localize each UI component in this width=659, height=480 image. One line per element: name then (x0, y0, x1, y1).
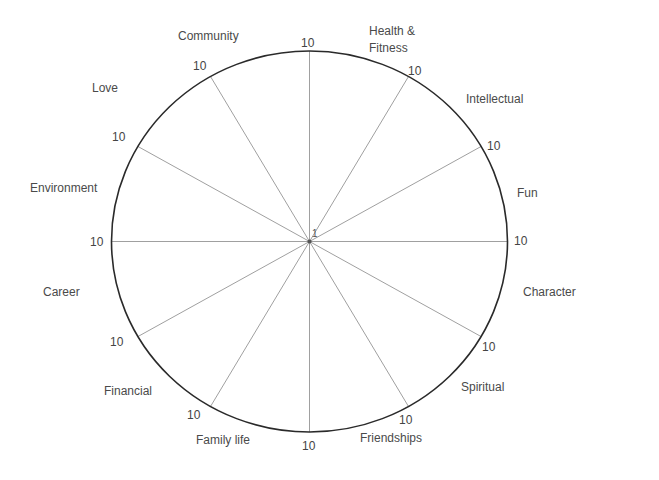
spoke-end-label: 10 (90, 235, 104, 249)
spoke-end-label: 10 (302, 439, 316, 453)
spoke-end-label: 10 (301, 36, 315, 50)
spoke-end-label: 10 (193, 59, 207, 73)
center-label: 1 (312, 228, 318, 239)
spoke-minus120 (211, 242, 310, 407)
spoke-end-label: 10 (187, 408, 201, 422)
spoke-end-label: 10 (110, 335, 124, 349)
segment-label-friendships: Friendships (360, 431, 422, 445)
spoke-30 (310, 147, 482, 242)
center-point (308, 240, 312, 244)
spoke-end-label: 10 (112, 130, 126, 144)
segment-label-career: Career (43, 285, 80, 299)
spoke-end-label: 10 (487, 139, 501, 153)
spoke-60 (310, 77, 409, 242)
segment-label-health-fitness: Health & Fitness (369, 24, 418, 55)
spoke-end-label: 10 (399, 413, 413, 427)
spoke-minus150 (138, 242, 310, 337)
segment-label-intellectual: Intellectual (466, 92, 523, 106)
segment-label-community: Community (178, 29, 239, 43)
spoke-end-label: 10 (514, 234, 528, 248)
segment-label-line: Health & (369, 24, 415, 38)
spoke-end-label: 10 (482, 340, 496, 354)
spoke-minus60 (310, 242, 409, 407)
segment-label-line: Fitness (369, 41, 408, 55)
wheel-of-life-diagram: 1 10 10 10 10 10 10 10 10 10 10 10 10 Co… (0, 0, 659, 480)
segment-label-love: Love (92, 81, 118, 95)
segment-label-environment: Environment (30, 181, 98, 195)
segment-label-family-life: Family life (196, 433, 250, 447)
spoke-minus30 (310, 242, 482, 337)
spoke-120 (211, 77, 310, 242)
spoke-150 (138, 147, 310, 242)
segment-label-fun: Fun (517, 186, 538, 200)
segment-label-character: Character (523, 285, 576, 299)
segment-label-financial: Financial (104, 384, 152, 398)
spoke-end-label: 10 (408, 64, 422, 78)
segment-label-spiritual: Spiritual (461, 380, 504, 394)
